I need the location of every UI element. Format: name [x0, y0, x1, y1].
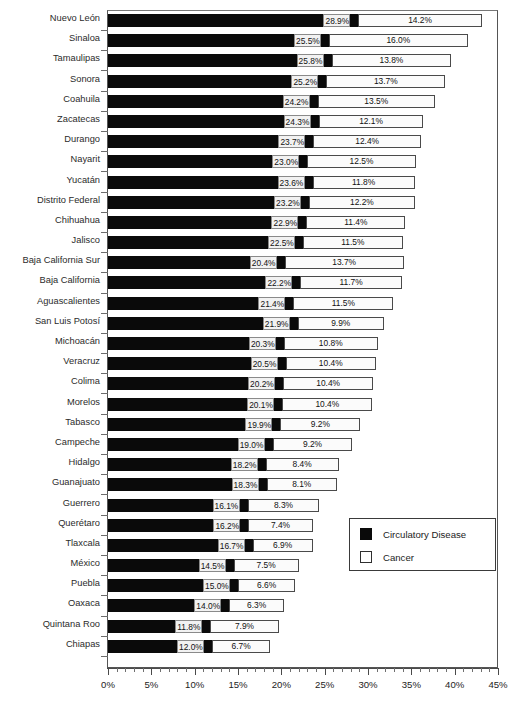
- y-axis-tick: [101, 232, 108, 233]
- category-label: Campeche: [0, 436, 100, 449]
- x-axis-tick-minor: [333, 668, 334, 672]
- x-axis-tick-major: [108, 668, 109, 675]
- x-axis-tick-minor: [446, 668, 447, 672]
- x-axis-tick-major: [498, 668, 499, 675]
- bar-value-label-cancer: 8.4%: [266, 458, 339, 471]
- bar-value-label-cancer: 11.5%: [303, 236, 403, 249]
- x-axis-tick-minor: [307, 668, 308, 672]
- category-label: Colima: [0, 375, 100, 388]
- y-axis-tick: [101, 393, 108, 394]
- bar-value-label-circulatory-disease: 18.3%: [232, 478, 259, 491]
- category-label: Sinaloa: [0, 32, 100, 45]
- category-label: Baja California: [0, 274, 100, 287]
- bar-value-label-circulatory-disease: 12.0%: [177, 640, 204, 653]
- x-axis-tick-label: 20%: [272, 679, 291, 690]
- stacked-bar: 28.9%14.2%: [108, 14, 498, 27]
- bar-value-label-circulatory-disease: 22.2%: [265, 276, 292, 289]
- bar-value-label-circulatory-disease: 20.3%: [249, 337, 276, 350]
- bar-value-label-cancer: 12.5%: [307, 155, 415, 168]
- x-axis-tick-minor: [177, 668, 178, 672]
- bar-row: Puebla15.0%6.6%: [0, 579, 518, 592]
- x-axis-tick-minor: [264, 668, 265, 672]
- bar-row: Nuevo León28.9%14.2%: [0, 14, 518, 27]
- bar-value-label-cancer: 12.4%: [313, 135, 420, 148]
- bar-row: Veracruz20.5%10.4%: [0, 357, 518, 370]
- x-axis-tick-minor: [117, 668, 118, 672]
- category-label: Tabasco: [0, 416, 100, 429]
- bar-value-label-cancer: 13.8%: [332, 54, 452, 67]
- bar-value-label-cancer: 14.2%: [358, 14, 481, 27]
- y-axis-tick: [101, 50, 108, 51]
- legend-item-cancer: Cancer: [360, 549, 414, 565]
- x-axis-tick-minor: [247, 668, 248, 672]
- category-label: Morelos: [0, 396, 100, 409]
- bar-value-label-cancer: 7.9%: [210, 620, 278, 633]
- bar-value-label-circulatory-disease: 22.5%: [268, 236, 295, 249]
- x-axis-tick-minor: [316, 668, 317, 672]
- stacked-bar: 20.4%13.7%: [108, 256, 498, 269]
- y-axis-tick: [101, 454, 108, 455]
- bar-value-label-circulatory-disease: 23.7%: [278, 135, 305, 148]
- category-label: Coahuila: [0, 93, 100, 106]
- x-axis-tick-major: [195, 668, 196, 675]
- x-axis-tick-minor: [273, 668, 274, 672]
- stacked-bar: 11.8%7.9%: [108, 620, 498, 633]
- stacked-bar: 22.5%11.5%: [108, 236, 498, 249]
- bar-row: Colima20.2%10.4%: [0, 377, 518, 390]
- x-axis-tick-label: 45%: [488, 679, 507, 690]
- category-label: Baja California Sur: [0, 254, 100, 267]
- stacked-bar: 19.0%9.2%: [108, 438, 498, 451]
- x-axis-tick-minor: [255, 668, 256, 672]
- x-axis-tick-minor: [394, 668, 395, 672]
- stacked-bar: 19.9%9.2%: [108, 418, 498, 431]
- x-axis-tick-minor: [134, 668, 135, 672]
- bar-row: Oaxaca14.0%6.3%: [0, 599, 518, 612]
- y-axis-tick: [101, 171, 108, 172]
- y-axis-tick: [101, 212, 108, 213]
- bar-value-label-circulatory-disease: 18.2%: [231, 458, 258, 471]
- y-axis-tick: [101, 535, 108, 536]
- y-axis-tick: [101, 30, 108, 31]
- category-label: Chiapas: [0, 638, 100, 651]
- bar-value-label-cancer: 9.2%: [273, 438, 353, 451]
- stacked-bar: 23.7%12.4%: [108, 135, 498, 148]
- bar-row: Coahuila24.2%13.5%: [0, 95, 518, 108]
- x-axis-tick-label: 30%: [358, 679, 377, 690]
- x-axis-tick-major: [411, 668, 412, 675]
- bar-row: Baja California Sur20.4%13.7%: [0, 256, 518, 269]
- bar-value-label-circulatory-disease: 20.2%: [248, 377, 275, 390]
- bar-row: Michoacán20.3%10.8%: [0, 337, 518, 350]
- bar-row: Zacatecas24.3%12.1%: [0, 115, 518, 128]
- y-axis-tick: [101, 91, 108, 92]
- stacked-bar: 25.8%13.8%: [108, 54, 498, 67]
- legend: Circulatory Disease Cancer: [349, 518, 496, 571]
- x-axis-tick-minor: [481, 668, 482, 672]
- bar-row: Guerrero16.1%8.3%: [0, 499, 518, 512]
- x-axis-tick-minor: [186, 668, 187, 672]
- bar-value-label-cancer: 12.1%: [319, 115, 424, 128]
- x-axis-tick-minor: [377, 668, 378, 672]
- bar-value-label-cancer: 6.3%: [229, 599, 284, 612]
- bar-value-label-circulatory-disease: 15.0%: [203, 579, 230, 592]
- category-label: Querétaro: [0, 517, 100, 530]
- stacked-bar: 22.9%11.4%: [108, 216, 498, 229]
- bar-row: Morelos20.1%10.4%: [0, 398, 518, 411]
- stacked-bar: 25.2%13.7%: [108, 75, 498, 88]
- bar-value-label-circulatory-disease: 20.4%: [250, 256, 277, 269]
- category-label: Nayarit: [0, 153, 100, 166]
- category-label: Michoacán: [0, 335, 100, 348]
- category-label: Chihuahua: [0, 214, 100, 227]
- x-axis-tick-major: [151, 668, 152, 675]
- x-axis-tick-minor: [160, 668, 161, 672]
- x-axis-tick-minor: [489, 668, 490, 672]
- x-axis-tick-label: 15%: [228, 679, 247, 690]
- y-axis-tick: [101, 434, 108, 435]
- x-axis-tick-major: [238, 668, 239, 675]
- bar-value-label-cancer: 12.2%: [309, 196, 415, 209]
- category-label: Guanajuato: [0, 476, 100, 489]
- y-axis-tick: [101, 272, 108, 273]
- bar-value-label-circulatory-disease: 20.5%: [251, 357, 278, 370]
- x-axis-tick-label: 35%: [402, 679, 421, 690]
- bar-row: Distrito Federal23.2%12.2%: [0, 196, 518, 209]
- bar-row: Hidalgo18.2%8.4%: [0, 458, 518, 471]
